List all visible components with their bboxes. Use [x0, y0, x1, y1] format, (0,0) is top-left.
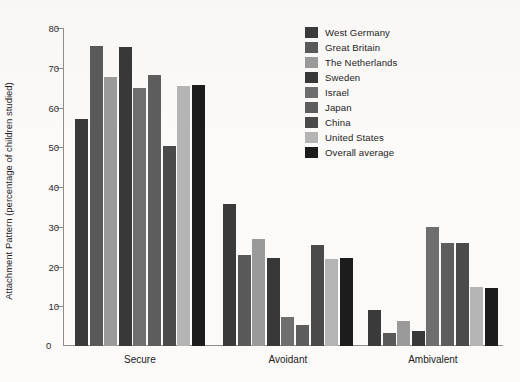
legend-label: Sweden	[325, 72, 360, 83]
bar	[383, 333, 396, 347]
legend-label: United States	[325, 132, 384, 143]
bar	[311, 245, 324, 346]
x-axis-label: Ambivalent	[408, 354, 457, 365]
bar	[252, 239, 265, 346]
legend-label: The Netherlands	[325, 57, 397, 68]
legend-item: Israel	[305, 86, 397, 100]
y-tick-label: 80	[48, 23, 59, 34]
legend-swatch-icon	[305, 132, 318, 143]
legend-label: China	[325, 117, 351, 128]
bar	[397, 321, 410, 346]
bar	[75, 119, 88, 346]
y-tick-label: 50	[48, 142, 59, 153]
legend-item: The Netherlands	[305, 56, 397, 70]
bar	[325, 259, 338, 346]
bar	[238, 255, 251, 346]
bar	[296, 325, 309, 346]
legend-swatch-icon	[305, 117, 318, 128]
legend-item: United States	[305, 131, 397, 145]
bar	[412, 331, 425, 347]
legend-swatch-icon	[305, 57, 318, 68]
legend-label: Great Britain	[325, 42, 380, 53]
bar	[485, 288, 498, 346]
bar	[470, 287, 483, 346]
bar	[192, 85, 205, 346]
legend-label: Overall average	[325, 147, 394, 158]
legend-swatch-icon	[305, 72, 318, 83]
bar	[163, 146, 176, 346]
attachment-pattern-bar-chart: Attachment Pattern (percentage of childr…	[0, 0, 520, 382]
y-tick-label: 10	[48, 301, 59, 312]
y-tick-label: 70	[48, 62, 59, 73]
x-axis-label: Secure	[124, 354, 156, 365]
legend-item: Great Britain	[305, 41, 397, 55]
x-axis-label: Avoidant	[269, 354, 308, 365]
bar	[267, 258, 280, 346]
legend-swatch-icon	[305, 27, 318, 38]
bar	[119, 47, 132, 346]
bar	[90, 46, 103, 346]
legend-item: China	[305, 116, 397, 130]
bar	[148, 75, 161, 346]
legend-item: Overall average	[305, 146, 397, 160]
legend-item: Japan	[305, 101, 397, 115]
y-tick-label: 30	[48, 221, 59, 232]
y-tick-label: 60	[48, 102, 59, 113]
bar	[426, 227, 439, 346]
bar	[456, 243, 469, 346]
bar	[133, 88, 146, 346]
legend-swatch-icon	[305, 42, 318, 53]
bar-group	[75, 28, 205, 346]
legend-item: West Germany	[305, 26, 397, 40]
legend-swatch-icon	[305, 147, 318, 158]
legend-label: West Germany	[325, 27, 390, 38]
bar	[340, 258, 353, 346]
chart-legend: West GermanyGreat BritainThe Netherlands…	[305, 26, 397, 160]
bar	[281, 317, 294, 346]
legend-item: Sweden	[305, 71, 397, 85]
bar	[223, 204, 236, 346]
y-tick-label: 40	[48, 182, 59, 193]
legend-label: Japan	[325, 102, 352, 113]
y-tick-label: 20	[48, 261, 59, 272]
legend-swatch-icon	[305, 87, 318, 98]
plot-area: 1020304050607080	[63, 28, 503, 346]
bar	[368, 310, 381, 346]
y-tick-label-zero: 0	[46, 340, 51, 351]
legend-label: Israel	[325, 87, 349, 98]
bar	[441, 243, 454, 346]
legend-swatch-icon	[305, 102, 318, 113]
bar	[177, 86, 190, 346]
y-axis-title: Attachment Pattern (percentage of childr…	[3, 66, 14, 316]
bar	[104, 77, 117, 346]
